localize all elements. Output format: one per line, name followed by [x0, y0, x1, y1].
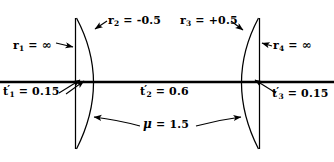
label-r4: r4 = ∞: [273, 39, 312, 53]
label-t2: t′2 = 0.6: [140, 84, 189, 99]
label-r3-equals: =: [195, 14, 204, 27]
label-r3-value: +0.5: [209, 14, 238, 27]
label-t3-equals: =: [288, 87, 297, 100]
label-t1-subscript: 1: [9, 90, 14, 99]
label-t2-equals: =: [156, 85, 165, 98]
leader-r4: [262, 43, 272, 46]
leader-r2: [95, 21, 107, 29]
label-mu-equals: =: [156, 118, 165, 131]
label-r2-subscript: 2: [114, 19, 119, 28]
label-r1: r1 = ∞: [13, 39, 52, 53]
leader-r1: [56, 43, 73, 47]
label-t1-equals: =: [19, 85, 28, 98]
label-r4-subscript: 4: [279, 44, 284, 53]
label-t3: t′3 = 0.15: [272, 86, 329, 101]
label-mu: μ = 1.5: [143, 118, 189, 130]
label-mu-symbol: μ: [143, 117, 152, 131]
label-t3-subscript: 3: [278, 92, 283, 101]
diagram-canvas: [0, 0, 334, 162]
label-r3-subscript: 3: [186, 19, 191, 28]
label-t2-subscript: 2: [146, 90, 151, 99]
surface-2-arc: [77, 18, 94, 149]
label-t1-value: 0.15: [32, 85, 60, 98]
label-r1-value: ∞: [42, 38, 52, 52]
surface-3-arc: [242, 18, 259, 149]
leader-mu-right: [196, 117, 241, 126]
label-r1-equals: =: [28, 39, 37, 52]
label-t3-value: 0.15: [301, 87, 329, 100]
label-r4-equals: =: [288, 39, 297, 52]
leader-mu-left: [94, 117, 140, 126]
optical-lens-diagram: r1 = ∞ r2 = -0.5 r3 = +0.5 r4 = ∞ t′1 = …: [0, 0, 334, 162]
label-r4-value: ∞: [302, 38, 312, 52]
label-r3: r3 = +0.5: [180, 15, 238, 28]
label-mu-value: 1.5: [169, 118, 189, 131]
label-r2: r2 = -0.5: [108, 15, 161, 28]
label-t2-value: 0.6: [169, 85, 189, 98]
label-r2-equals: =: [123, 14, 132, 27]
label-r1-subscript: 1: [19, 44, 24, 53]
label-t1: t′1 = 0.15: [3, 84, 60, 99]
label-r2-value: -0.5: [137, 14, 162, 27]
